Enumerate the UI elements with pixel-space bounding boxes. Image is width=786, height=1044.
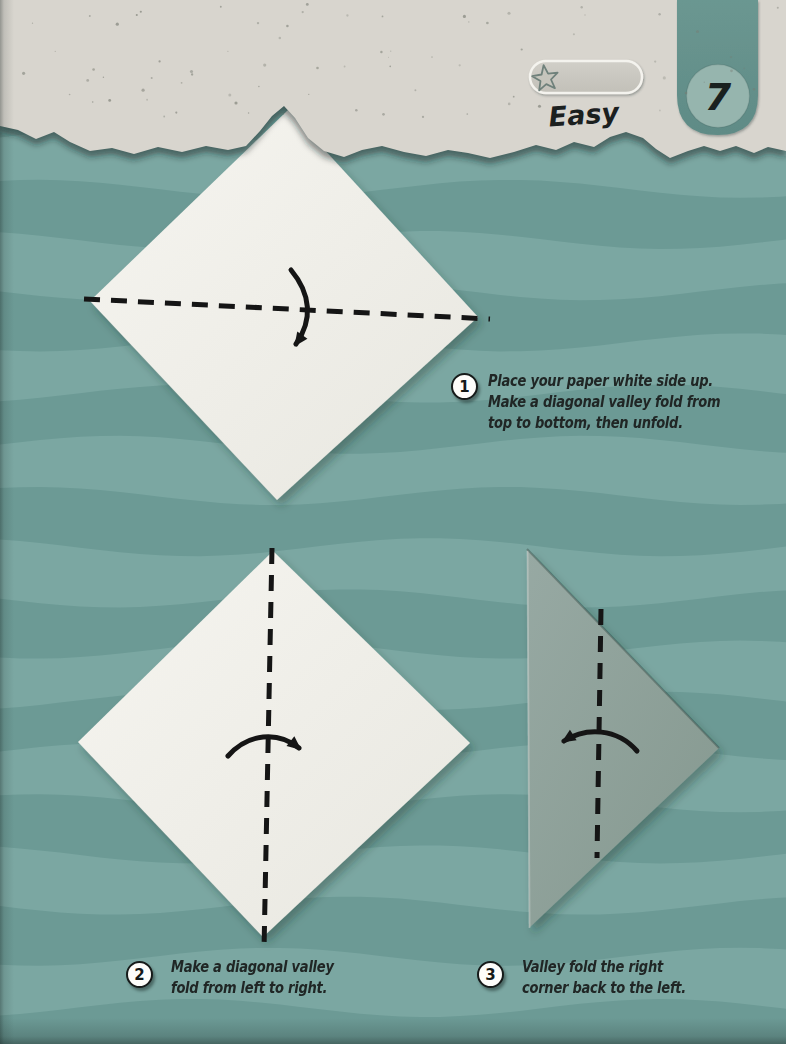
step3-instruction: Valley fold the right corner back to the… (522, 957, 686, 999)
step2-instruction: Make a diagonal valley fold from left to… (171, 957, 334, 999)
step2-number-badge: 2 (126, 961, 153, 988)
origami-book-page: 7 Easy 1 Place your paper white side up.… (0, 0, 786, 1044)
step1-instruction: Place your paper white side up. Make a d… (488, 371, 720, 434)
difficulty-label: Easy (548, 96, 622, 132)
torn-paper-header: 7 Easy (0, 0, 786, 190)
step3-line1: Valley fold the right (522, 957, 686, 978)
step1-number: 1 (459, 378, 469, 396)
step1-line1: Place your paper white side up. (488, 371, 720, 392)
step2-line1: Make a diagonal valley (171, 957, 334, 978)
step2-line2: fold from left to right. (171, 978, 334, 999)
step2-number: 2 (134, 966, 144, 984)
step3-number: 3 (485, 966, 495, 984)
page-number: 7 (705, 75, 732, 119)
step3-number-badge: 3 (477, 961, 504, 988)
step1-number-badge: 1 (451, 373, 478, 400)
step2-paper-square-diamond (78, 551, 470, 937)
step3-line2: corner back to the left. (522, 978, 686, 999)
step1-line3: top to bottom, then unfold. (488, 413, 720, 434)
step1-line2: Make a diagonal valley fold from (488, 392, 720, 413)
